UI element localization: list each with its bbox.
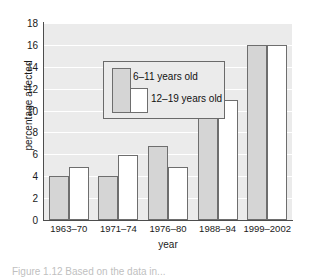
- legend: 6–11 years old 12–19 years old: [103, 61, 225, 119]
- y-tick-label: 10: [20, 105, 38, 116]
- plot-area: 6–11 years old 12–19 years old: [44, 23, 292, 220]
- y-tick-label: 0: [20, 215, 38, 226]
- y-tick-label: 4: [20, 171, 38, 182]
- y-tick-label: 12: [20, 83, 38, 94]
- y-axis-tick-labels: 024681012141618: [18, 0, 38, 279]
- x-axis-line: [43, 220, 293, 221]
- y-tick-label: 16: [20, 39, 38, 50]
- bar: [98, 176, 118, 220]
- y-tick-label: 14: [20, 61, 38, 72]
- y-tick-label: 2: [20, 193, 38, 204]
- x-tick-label: 1999–2002: [243, 223, 291, 234]
- x-axis-title: year: [44, 239, 292, 250]
- legend-label-12-19: 12–19 years old: [151, 93, 222, 104]
- y-tick-label: 8: [20, 127, 38, 138]
- bar: [168, 167, 188, 220]
- gridline: [44, 23, 292, 24]
- figure-bar-chart: percentage affected 024681012141618 6–11…: [0, 0, 312, 279]
- y-tick-label: 6: [20, 149, 38, 160]
- legend-swatch-6-11-icon: [112, 68, 131, 113]
- bar: [267, 45, 287, 220]
- bar: [148, 146, 168, 220]
- y-tick-label: 18: [20, 18, 38, 29]
- legend-label-6-11: 6–11 years old: [133, 71, 198, 82]
- bar: [49, 176, 69, 220]
- legend-swatch-12-19-icon: [130, 88, 148, 113]
- figure-caption: Figure 1.12 Based on the data in...: [12, 266, 302, 277]
- x-tick-label: 1988–94: [199, 223, 236, 234]
- x-tick-label: 1976–80: [150, 223, 187, 234]
- x-tick-label: 1971–74: [100, 223, 137, 234]
- bar: [118, 155, 138, 220]
- x-tick-label: 1963–70: [50, 223, 87, 234]
- bar: [247, 45, 267, 220]
- bar: [69, 167, 89, 220]
